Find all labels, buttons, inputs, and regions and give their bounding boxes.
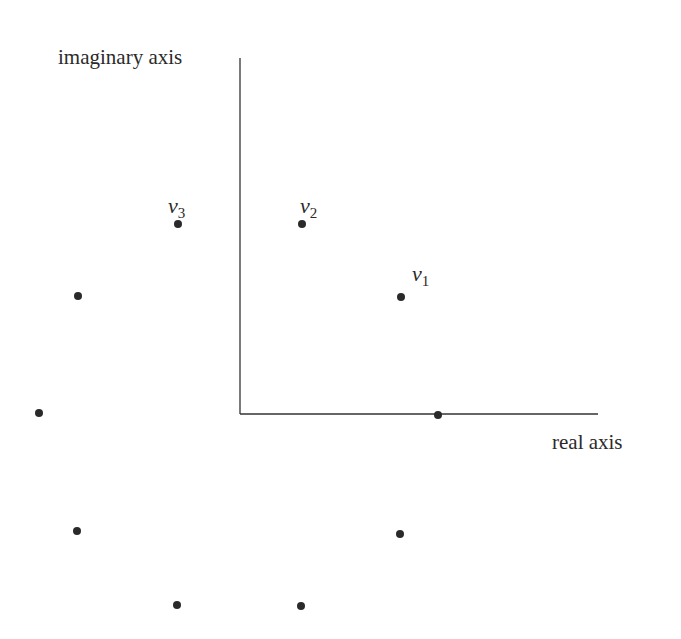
point-dot-8 xyxy=(396,530,404,538)
point-dot-2 xyxy=(174,220,182,228)
label-v3: v3 xyxy=(168,193,185,221)
point-dot-4 xyxy=(35,409,43,417)
imaginary-axis-label: imaginary axis xyxy=(58,45,182,69)
complex-plane-diagram: imaginary axis real axis v1 v2 v3 xyxy=(0,0,681,639)
point-dot-0 xyxy=(397,293,405,301)
point-dot-6 xyxy=(173,601,181,609)
label-v1: v1 xyxy=(412,261,429,289)
point-dot-3 xyxy=(74,292,82,300)
point-dot-5 xyxy=(73,527,81,535)
point-dot-7 xyxy=(297,602,305,610)
point-labels: v1 v2 v3 xyxy=(168,193,429,289)
real-axis-label: real axis xyxy=(552,430,623,454)
point-dot-1 xyxy=(298,220,306,228)
point-dot-9 xyxy=(434,411,442,419)
roots-of-unity-points xyxy=(35,220,442,610)
label-v2: v2 xyxy=(300,193,317,221)
